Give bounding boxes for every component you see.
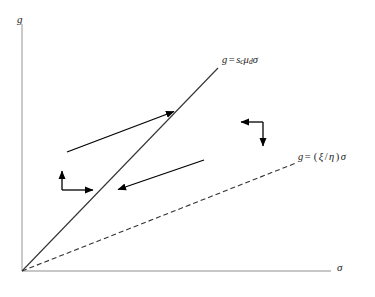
dashed-label-variable: σ [341,151,346,162]
x-axis-label: σ [337,262,342,273]
solid-line-series [22,68,218,271]
lower-diagonal-arrow [118,160,204,190]
left-corner-arrow-pair [62,171,93,190]
solid-label-operator: = [227,54,236,65]
solid-line-label: g=scμdσ [222,55,258,66]
upper-diagonal-arrow [67,112,174,153]
axes-group [22,24,331,271]
plot-canvas [0,0,375,297]
dashed-label-operator: = [303,151,312,162]
y-axis-label: g [17,14,23,25]
dashed-line-series [22,163,296,271]
right-corner-arrow-pair [241,122,263,146]
solid-label-variable: σ [253,54,258,65]
series-group [22,68,296,271]
dashed-line-label: g=(ξ/η)σ [298,152,346,163]
annotation-arrows-group [62,112,263,191]
phase-diagram-figure: g σ g=scμdσ g=(ξ/η)σ [0,0,375,297]
